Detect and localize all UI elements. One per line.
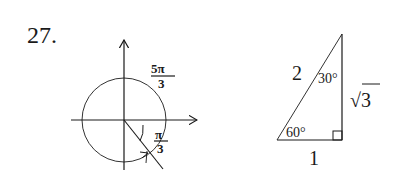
problem-27-figure: 27. 5π 3 π 3 bbox=[0, 0, 402, 190]
outer-angle-label: 5π 3 bbox=[151, 61, 175, 91]
base-label: 1 bbox=[309, 147, 319, 169]
inner-angle-arc bbox=[140, 125, 143, 141]
svg-text:3: 3 bbox=[158, 76, 165, 91]
inner-angle-label: π 3 bbox=[154, 127, 168, 156]
unit-circle-diagram: 5π 3 π 3 bbox=[71, 40, 197, 170]
svg-text:3: 3 bbox=[157, 141, 164, 156]
right-angle-marker-icon bbox=[333, 131, 342, 140]
bottom-angle-label: 60° bbox=[286, 125, 306, 140]
special-right-triangle: 2 30° √3 60° 1 bbox=[277, 34, 380, 169]
top-angle-label: 30° bbox=[318, 71, 338, 86]
svg-text:5π: 5π bbox=[151, 61, 165, 76]
svg-text:π: π bbox=[155, 127, 162, 142]
hypotenuse-label: 2 bbox=[292, 62, 302, 84]
vertical-side-label: √3 bbox=[350, 89, 371, 111]
problem-number: 27. bbox=[27, 22, 57, 48]
